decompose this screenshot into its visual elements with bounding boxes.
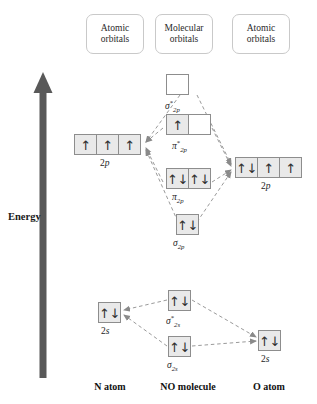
orbital-cell: ↑↓ [166, 168, 189, 189]
orbital-cell: ↑↓ [168, 290, 191, 311]
orbital-star: * [171, 314, 174, 321]
orbital-cell [166, 74, 189, 95]
orbital-cell: ↑ [257, 157, 280, 178]
orbital-sub: 2s [172, 365, 178, 372]
orbital-cell: ↑ [74, 134, 97, 155]
header-line2: orbitals [170, 34, 199, 45]
orbital-sub: 2p [173, 106, 180, 113]
spin-arrows: ↑↓ [189, 172, 210, 185]
label-sigma-2s: σ2s [167, 360, 178, 372]
orbital-o-2p: ↑↓ ↑ ↑ [235, 157, 302, 178]
label-sigma-2p: σ2p [173, 238, 184, 250]
orbital-sigma-2p: ↑↓ [176, 214, 199, 235]
spin-arrows: ↑ [102, 138, 112, 151]
footer-no-molecule: NO molecule [143, 381, 233, 392]
label-pi-star-2p: π*2p [172, 139, 187, 153]
orbital-cell: ↑↓ [98, 302, 121, 323]
level-letter: p [105, 158, 110, 168]
header-atomic-orbitals-left: Atomic orbitals [86, 14, 144, 54]
orbital-star: * [177, 139, 180, 146]
mo-diagram: Atomic orbitals Molecular orbitals Atomi… [0, 0, 317, 404]
orbital-cell: ↑↓ [168, 336, 191, 357]
level-letter: s [266, 354, 270, 364]
level-letter: s [106, 326, 110, 336]
spin-arrows: ↑ [172, 118, 182, 131]
spin-arrows: ↑ [80, 138, 90, 151]
orbital-cell: ↑↓ [176, 214, 199, 235]
header-line1: Atomic [101, 23, 130, 34]
spin-arrows: ↑↓ [259, 334, 280, 347]
header-line1: Molecular [164, 23, 203, 34]
header-line2: orbitals [101, 34, 130, 45]
orbital-cell: ↑ [96, 134, 119, 155]
orbital-o-2s: ↑↓ [258, 330, 281, 351]
header-line1: Atomic [247, 23, 276, 34]
label-sigma-star-2s: σ*2s [166, 314, 180, 328]
orbital-sigma-star-2s: ↑↓ [168, 290, 191, 311]
orbital-star: * [170, 99, 173, 106]
header-molecular-orbitals: Molecular orbitals [155, 14, 213, 54]
orbital-cell: ↑↓ [258, 330, 281, 351]
level-letter: p [266, 181, 271, 191]
spin-arrows: ↑↓ [169, 294, 190, 307]
spin-arrows: ↑↓ [169, 340, 190, 353]
label-sigma-star-2p: σ*2p [165, 99, 180, 113]
label-pi-2p: π2p [172, 192, 184, 204]
spin-arrows: ↑↓ [167, 172, 188, 185]
orbital-cell: ↑↓ [235, 157, 258, 178]
label-o-2p: 2p [261, 181, 271, 191]
header-atomic-orbitals-right: Atomic orbitals [232, 14, 290, 54]
orbital-sub: 2s [174, 321, 180, 328]
orbital-pi-2p: ↑↓ ↑↓ [166, 168, 211, 189]
spin-arrows: ↑↓ [99, 306, 120, 319]
orbital-cell: ↑ [166, 114, 189, 135]
spin-arrows: ↑↓ [236, 161, 257, 174]
orbital-sub: 2p [178, 243, 185, 250]
orbital-pi-star-2p: ↑ [166, 114, 211, 135]
label-n-2s: 2s [101, 326, 109, 336]
orbital-sub: 2p [177, 197, 184, 204]
orbital-sub: 2p [180, 146, 187, 153]
spin-arrows: ↑↓ [177, 218, 198, 231]
orbital-sigma-star-2p [166, 74, 189, 95]
footer-n-atom: N atom [74, 381, 146, 392]
orbital-sigma-2s: ↑↓ [168, 336, 191, 357]
spin-arrows: ↑ [285, 161, 295, 174]
orbital-n-2p: ↑ ↑ ↑ [74, 134, 141, 155]
orbital-cell: ↑ [279, 157, 302, 178]
orbital-n-2s: ↑↓ [98, 302, 121, 323]
header-line2: orbitals [247, 34, 276, 45]
energy-axis-arrow [34, 72, 53, 378]
energy-axis-label: Energy [8, 211, 41, 222]
footer-o-atom: O atom [236, 381, 302, 392]
orbital-cell: ↑ [118, 134, 141, 155]
label-n-2p: 2p [100, 158, 110, 168]
label-o-2s: 2s [261, 354, 269, 364]
spin-arrows: ↑ [263, 161, 273, 174]
orbital-cell: ↑↓ [188, 168, 211, 189]
orbital-cell [188, 114, 211, 135]
spin-arrows: ↑ [124, 138, 134, 151]
